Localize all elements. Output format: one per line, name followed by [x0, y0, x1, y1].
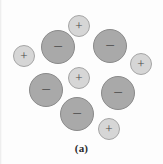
particle-negative-7: − — [29, 73, 63, 107]
minus-sign-icon: − — [41, 81, 51, 98]
particle-positive-5: + — [130, 53, 152, 75]
particle-positive-10: + — [98, 118, 120, 140]
particle-negative-8: − — [101, 76, 135, 110]
plus-sign-icon: + — [20, 49, 27, 62]
page-edge-shadow — [0, 0, 2, 164]
minus-sign-icon: − — [113, 84, 123, 101]
particle-positive-4: + — [13, 45, 35, 67]
particle-negative-3: − — [93, 29, 127, 63]
plus-sign-icon: + — [75, 19, 82, 32]
plus-sign-icon: + — [105, 122, 112, 135]
minus-sign-icon: − — [53, 38, 63, 55]
particle-negative-2: − — [41, 30, 75, 64]
plus-sign-icon: + — [75, 71, 82, 84]
minus-sign-icon: − — [105, 37, 115, 54]
particle-negative-9: − — [60, 97, 94, 131]
particle-positive-1: + — [68, 15, 90, 37]
figure-caption: (a) — [0, 142, 163, 154]
minus-sign-icon: − — [72, 105, 82, 122]
particle-positive-6: + — [68, 67, 90, 89]
plus-sign-icon: + — [137, 57, 144, 70]
charged-particle-diagram: +−−+++−−−+ (a) — [0, 0, 163, 164]
